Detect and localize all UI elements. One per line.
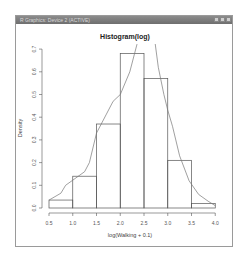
x-tick-label: 0.5: [46, 220, 53, 226]
x-tick-label: 1.0: [69, 220, 76, 226]
y-tick-label: 0.2: [31, 159, 37, 166]
histogram-bar: [73, 176, 97, 208]
y-axis: 0.00.10.20.30.40.50.60.7: [31, 45, 42, 211]
histogram-chart: Histogram(log) 0.00.10.20.30.40.50.60.7 …: [0, 0, 246, 259]
histogram-bar: [120, 54, 144, 208]
x-tick-label: 4.0: [212, 220, 219, 226]
x-tick-label: 2.5: [141, 220, 148, 226]
chart-title: Histogram(log): [100, 33, 150, 41]
density-line: [49, 31, 215, 206]
histogram-bar: [192, 203, 216, 208]
x-axis: 0.51.01.52.02.53.03.54.0: [46, 213, 219, 226]
y-tick-label: 0.5: [31, 91, 37, 98]
y-tick-label: 0.6: [31, 68, 37, 75]
histogram-bar: [49, 200, 73, 208]
histogram-bar: [144, 79, 168, 208]
histogram-bar: [97, 124, 121, 208]
density-curve: [49, 31, 215, 206]
x-tick-label: 3.0: [164, 220, 171, 226]
x-tick-label: 3.5: [188, 220, 195, 226]
y-axis-label: Density: [17, 119, 23, 138]
histogram-bar: [168, 160, 192, 208]
x-tick-label: 1.5: [93, 220, 100, 226]
histogram-bars: [49, 54, 215, 208]
y-tick-label: 0.4: [31, 114, 37, 121]
x-axis-label: log(Walking + 0.1): [108, 232, 152, 238]
y-tick-label: 0.0: [31, 204, 37, 211]
y-tick-label: 0.3: [31, 136, 37, 143]
y-tick-label: 0.7: [31, 45, 37, 52]
y-tick-label: 0.1: [31, 182, 37, 189]
x-tick-label: 2.0: [117, 220, 124, 226]
